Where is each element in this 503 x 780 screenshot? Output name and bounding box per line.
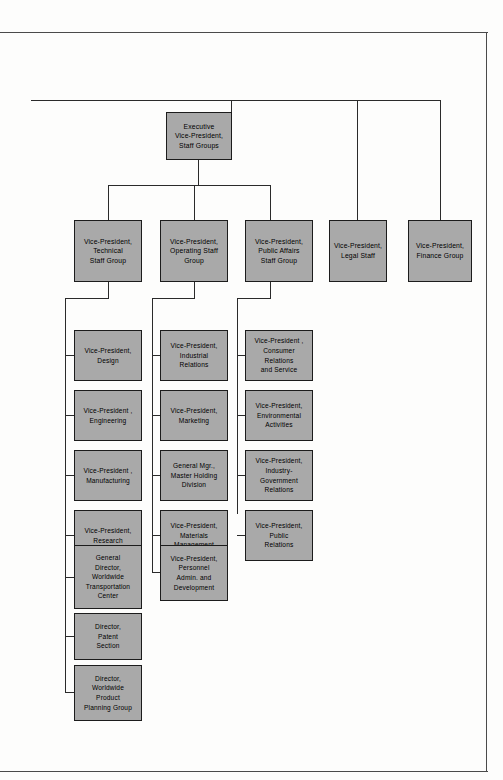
connector-col1-spine	[65, 298, 66, 692]
node-vice-president-marketing[interactable]: Vice-President, Marketing	[160, 390, 228, 441]
connector-root-drop	[231, 100, 232, 112]
connector-col3-stem	[270, 282, 271, 298]
connector-col3-elbow	[237, 298, 271, 299]
connector-finance-drop	[440, 100, 441, 220]
connector-col3-spine	[237, 298, 238, 514]
node-general-mgr-master-holding-division[interactable]: General Mgr., Master Holding Division	[160, 450, 228, 501]
node-vice-president-public-affairs-staff-group[interactable]: Vice-President, Public Affairs Staff Gro…	[245, 220, 313, 282]
node-vice-president-legal-staff[interactable]: Vice-President, Legal Staff	[329, 220, 387, 282]
node-director-worldwide-product-planning-group[interactable]: Director, Worldwide Product Planning Gro…	[74, 665, 142, 721]
connector-root-stem	[198, 160, 199, 185]
page-frame-top-border	[0, 32, 488, 33]
node-vice-president-public-relations[interactable]: Vice-President, Public Relations	[245, 510, 313, 561]
node-vice-president-technical-staff-group[interactable]: Vice-President, Technical Staff Group	[74, 220, 142, 282]
node-vice-president-design[interactable]: Vice-President, Design	[74, 330, 142, 381]
connector-technical-drop	[108, 185, 109, 220]
node-vice-president-finance-group[interactable]: Vice-President, Finance Group	[408, 220, 472, 282]
org-chart-page: Executive Vice-President, Staff Groups V…	[0, 0, 503, 780]
connector-col2-stem	[194, 282, 195, 298]
node-vice-president-environmental-activities[interactable]: Vice-President, Environmental Activities	[245, 390, 313, 441]
node-vice-president-operating-staff-group[interactable]: Vice-President, Operating Staff Group	[160, 220, 228, 282]
connector-operating-drop	[194, 185, 195, 220]
connector-public-affairs-drop	[270, 185, 271, 220]
node-vice-president-personnel-admin-and-development[interactable]: Vice-President, Personnel Admin. and Dev…	[160, 545, 228, 601]
node-vice-president-engineering[interactable]: Vice-President , Engineering	[74, 390, 142, 441]
connector-col2-elbow	[152, 298, 195, 299]
node-vice-president-industry-government-relations[interactable]: Vice-President, Industry- Government Rel…	[245, 450, 313, 501]
connector-col2-spine	[152, 298, 153, 572]
node-vice-president-consumer-relations-and-service[interactable]: Vice-President , Consumer Relations and …	[245, 330, 313, 381]
page-frame-bottom-border	[0, 771, 488, 772]
connector-col1-elbow	[65, 298, 109, 299]
connector-col1-stem	[108, 282, 109, 298]
node-general-director-worldwide-transportation-center[interactable]: General Director, Worldwide Transportati…	[74, 545, 142, 609]
node-vice-president-industrial-relations[interactable]: Vice-President, Industrial Relations	[160, 330, 228, 381]
node-director-patent-section[interactable]: Director, Patent Section	[74, 613, 142, 660]
node-executive-vice-president-staff-groups[interactable]: Executive Vice-President, Staff Groups	[166, 112, 232, 160]
level2-bus-line	[108, 185, 271, 186]
page-frame-right-border	[486, 32, 487, 772]
connector-legal-drop	[357, 100, 358, 220]
top-bus-line	[31, 100, 441, 101]
node-vice-president-manufacturing[interactable]: Vice-President , Manufacturing	[74, 450, 142, 501]
